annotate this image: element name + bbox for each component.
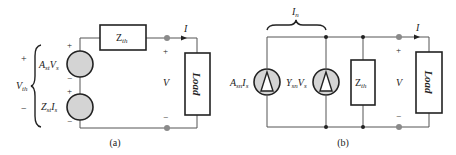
terminal-bottom-b (396, 124, 402, 130)
current-label-a: I (183, 23, 188, 34)
voltage-plus-b: + (396, 45, 401, 55)
wires-a (80, 38, 197, 128)
circuit-diagram: + − + − AstVs ZstIs + Vth − Zth I + V (0, 0, 456, 155)
current-arrow-a (181, 36, 187, 41)
vth-plus: + (21, 53, 27, 64)
voltage-minus-b: − (396, 111, 401, 121)
terminal-top-b (396, 34, 402, 40)
current-source-2 (313, 69, 339, 95)
source1-label-b: AsnIs (229, 77, 249, 90)
junction-dot (324, 35, 328, 39)
caption-b: (b) (337, 137, 349, 149)
vth-label: Vth (16, 80, 28, 93)
junction-dot (324, 125, 328, 129)
source1-plus: + (67, 40, 72, 50)
load-label-a: Load (191, 71, 203, 96)
curly-brace-b (267, 20, 326, 30)
source2-label-b: YsnVs (286, 77, 307, 90)
load-label-b: Load (423, 69, 435, 94)
terminal-bottom-a (164, 125, 170, 131)
terminal-top-a (164, 35, 170, 41)
junction-dot (361, 35, 365, 39)
voltage-minus-a: − (163, 112, 168, 122)
source2-minus: − (67, 116, 72, 126)
junction-dot (361, 125, 365, 129)
voltage-label-b: V (396, 77, 404, 88)
source2-plus: + (67, 86, 72, 96)
current-source-1 (254, 69, 280, 95)
curly-brace-a (31, 45, 41, 127)
vth-minus: − (21, 103, 27, 114)
norton-current-label: In (291, 6, 299, 19)
source1-label: AstVs (38, 59, 59, 72)
voltage-plus-a: + (163, 46, 168, 56)
current-label-b: I (415, 22, 420, 33)
caption-a: (a) (109, 137, 120, 149)
source2-label: ZstIs (41, 101, 58, 114)
figure-b: AsnIs YsnVs In Zth I + V − Load (b) (229, 6, 442, 149)
voltage-label-a: V (163, 77, 171, 88)
current-arrow-b (414, 35, 420, 40)
source1-minus: − (67, 73, 72, 83)
figure-a: + − + − AstVs ZstIs + Vth − Zth I + V (16, 23, 210, 149)
